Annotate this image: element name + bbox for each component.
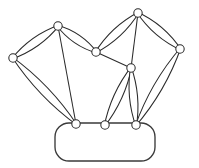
right-top-joint (134, 9, 142, 17)
left-outer-joint (9, 54, 17, 62)
link-right-lower-long (135, 47, 181, 127)
link-right-top-right (136, 12, 182, 51)
base-right-joint (132, 121, 140, 129)
link-right-top-left (94, 11, 139, 53)
link-center-left-lower (104, 66, 132, 127)
mechanism-diagram: Parallel kinematic linkage mechanism (0, 0, 199, 168)
center-upper-joint (92, 48, 100, 56)
links-layer (11, 11, 182, 127)
link-center-right-lower (129, 66, 138, 128)
link-center-diagonal (96, 52, 131, 68)
link-left-upper-outer (11, 25, 60, 60)
base-center-joint (101, 121, 109, 129)
right-outer-joint (176, 45, 184, 53)
center-lower-joint (127, 64, 135, 72)
base-left-joint (72, 120, 80, 128)
link-left-lower-long (11, 56, 77, 125)
left-upper-joint (54, 22, 62, 30)
